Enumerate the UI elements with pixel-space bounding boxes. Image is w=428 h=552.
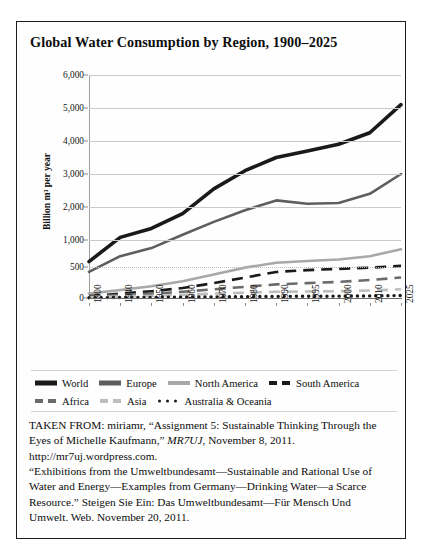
legend-label: Africa [62, 396, 89, 407]
legend-swatch-world [35, 378, 57, 389]
x-axis-tick-label: 1970 [218, 284, 228, 303]
x-axis-tick-mark [151, 303, 152, 306]
x-axis-tick-mark [214, 303, 215, 306]
x-axis-tick-mark [307, 303, 308, 306]
legend-row: WorldEuropeNorth AmericaSouth America [31, 374, 397, 392]
x-axis-tick-label: 1990 [280, 284, 290, 303]
y-axis-tick-mark [84, 75, 88, 76]
legend-swatch-africa [35, 396, 57, 407]
x-axis-tick-label: 1980 [249, 284, 259, 303]
legend-label: World [62, 378, 88, 389]
legend-row: AfricaAsiaAustralia & Oceania [31, 392, 397, 410]
y-axis-tick-mark [84, 174, 88, 175]
y-axis-ticks: 6,0005,0004,0003,0002,0001,0005000 [17, 75, 84, 299]
chart-legend: WorldEuropeNorth AmericaSouth AmericaAfr… [31, 370, 397, 412]
gridline [89, 267, 401, 268]
x-axis-tick-label: 1950 [155, 284, 165, 303]
legend-swatch-asia [100, 396, 122, 407]
legend-item-north-america[interactable]: North America [168, 378, 258, 389]
legend-label: Australia & Oceania [184, 396, 271, 407]
legend-label: Asia [127, 396, 146, 407]
caption-paragraph-2: “Exhibitions from the Umweltbundesamt—Su… [29, 464, 391, 525]
legend-swatch-australia-oceania [157, 396, 179, 407]
series-line-world [89, 105, 401, 262]
x-axis-tick-label: 1900 [93, 284, 103, 303]
y-axis-tick-label: 5,000 [24, 103, 84, 113]
page-title: Global Water Consumption by Region, 1900… [30, 34, 390, 50]
gridline [89, 298, 401, 299]
legend-label: South America [296, 378, 359, 389]
series-line-south-america [89, 266, 401, 296]
x-axis-tick-label: 1960 [187, 284, 197, 303]
legend-swatch-europe [99, 378, 121, 389]
gridline [89, 207, 401, 208]
y-axis-tick-label: 500 [24, 262, 84, 272]
y-axis-tick-label: 6,000 [24, 70, 84, 80]
x-axis-ticks: 1900194019501960197019801990199520002010… [89, 303, 402, 353]
gridline [89, 108, 401, 109]
y-axis-tick-mark [84, 267, 88, 268]
gridline [89, 240, 401, 241]
x-axis-tick-label: 2010 [374, 284, 384, 303]
legend-item-world[interactable]: World [35, 378, 88, 389]
legend-item-africa[interactable]: Africa [35, 396, 89, 407]
gridline [89, 174, 401, 175]
legend-label: Europe [126, 378, 157, 389]
figure-frame: Global Water Consumption by Region, 1900… [16, 21, 406, 539]
y-axis-tick-label: 3,000 [24, 169, 84, 179]
legend-item-europe[interactable]: Europe [99, 378, 157, 389]
legend-swatch-south-america [269, 378, 291, 389]
caption-source-title: MR7UJ [167, 434, 202, 446]
gridline [89, 141, 401, 142]
figure-caption: TAKEN FROM: miriamr, “Assignment 5: Sust… [29, 418, 391, 526]
legend-item-south-america[interactable]: South America [269, 378, 359, 389]
legend-item-asia[interactable]: Asia [100, 396, 146, 407]
gridline [89, 75, 401, 76]
chart-area: Billion m³ per year 6,0005,0004,0003,000… [17, 60, 407, 365]
x-axis-tick-mark [276, 303, 277, 306]
x-axis-tick-mark [339, 303, 340, 306]
x-axis-tick-label: 1995 [311, 284, 321, 303]
legend-item-australia-oceania[interactable]: Australia & Oceania [157, 396, 271, 407]
x-axis-tick-mark [245, 303, 246, 306]
y-axis-tick-label: 2,000 [24, 202, 84, 212]
x-axis-tick-label: 2000 [343, 284, 353, 303]
series-line-north-america [89, 249, 401, 293]
x-axis-tick-label: 1940 [124, 284, 134, 303]
x-axis-tick-mark [89, 303, 90, 306]
y-axis-tick-label: 1,000 [24, 235, 84, 245]
y-axis-tick-label: 0 [24, 293, 84, 303]
legend-swatch-north-america [168, 378, 190, 389]
y-axis-tick-mark [84, 141, 88, 142]
y-axis-tick-mark [84, 207, 88, 208]
x-axis-tick-mark [401, 303, 402, 306]
legend-label: North America [195, 378, 258, 389]
x-axis-tick-mark [183, 303, 184, 306]
x-axis-tick-label: 2025 [405, 284, 415, 303]
y-axis-tick-label: 4,000 [24, 136, 84, 146]
y-axis-tick-mark [84, 240, 88, 241]
x-axis-tick-mark [120, 303, 121, 306]
plot-region [89, 75, 401, 298]
caption-paragraph-1: TAKEN FROM: miriamr, “Assignment 5: Sust… [29, 418, 391, 464]
x-axis-tick-mark [370, 303, 371, 306]
y-axis-tick-mark [84, 108, 88, 109]
